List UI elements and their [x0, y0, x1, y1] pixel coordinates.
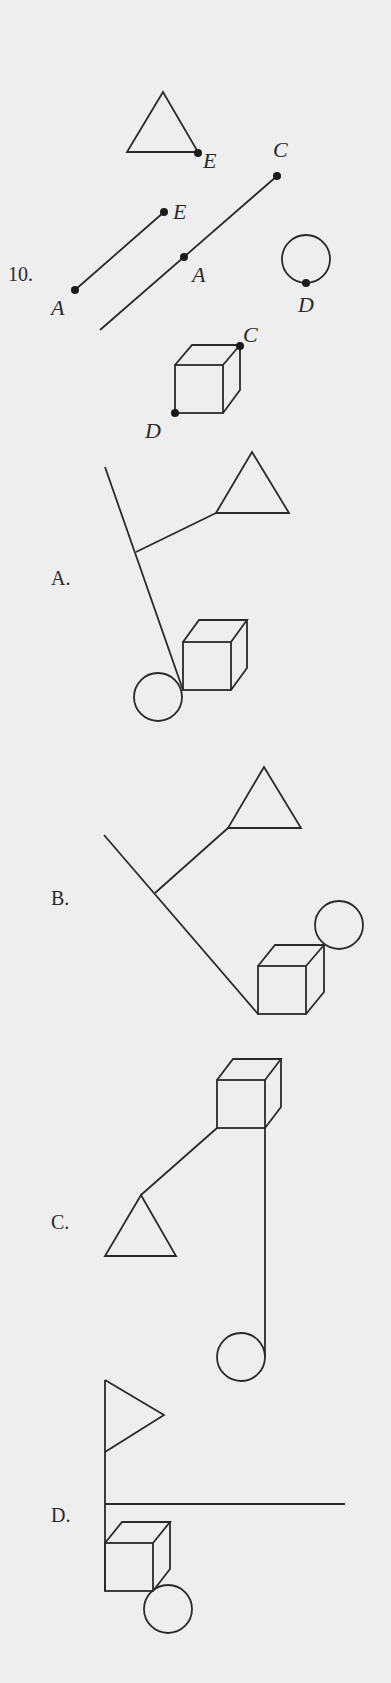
option-b-label: B. [51, 887, 69, 909]
diagram-page: 10. E A E A C D [0, 0, 391, 1683]
label-e-segment1: E [172, 199, 187, 224]
diagram-canvas: 10. E A E A C D [0, 0, 391, 1683]
point-e-dot [160, 208, 168, 216]
option-c[interactable]: C. [51, 1059, 281, 1381]
cube-shape: C D [144, 322, 258, 443]
label-d-cube: D [144, 418, 161, 443]
line-ac: A C [100, 137, 288, 330]
triangle-shape: E [127, 92, 217, 173]
label-e-triangle: E [202, 148, 217, 173]
option-a[interactable]: A. [51, 452, 289, 721]
option-c-label: C. [51, 1211, 69, 1233]
option-d-label: D. [51, 1504, 70, 1526]
label-a-line: A [190, 262, 206, 287]
option-d[interactable]: D. [51, 1380, 345, 1633]
label-d-circle: D [297, 292, 314, 317]
point-a-dot [180, 253, 188, 261]
question-figure: 10. E A E A C D [8, 92, 330, 443]
point-a-dot [71, 286, 79, 294]
point-c-dot [273, 172, 281, 180]
option-a-label: A. [51, 567, 70, 589]
circle-shape: D [282, 235, 330, 317]
point-e-dot [194, 149, 202, 157]
option-b[interactable]: B. [51, 767, 363, 1014]
point-d-dot [302, 279, 310, 287]
label-a-segment1: A [49, 295, 65, 320]
question-number: 10. [8, 263, 33, 285]
segment-ae: A E [49, 199, 187, 320]
label-c-line: C [273, 137, 288, 162]
point-d-dot [171, 409, 179, 417]
label-c-cube: C [243, 322, 258, 347]
